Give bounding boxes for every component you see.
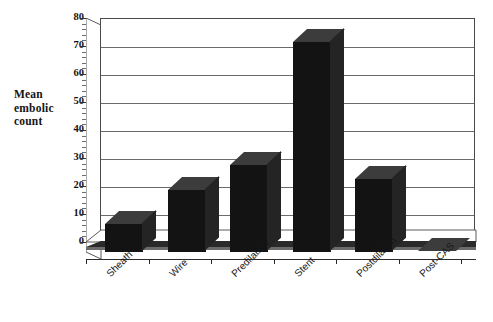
chart-figure: Mean embolic count 01020304050607080 She…	[0, 0, 493, 322]
x-axis-tick	[399, 259, 400, 264]
bar-top-face	[168, 177, 206, 190]
bar-top-face	[293, 29, 331, 42]
x-axis-tick	[86, 259, 87, 264]
bar-front-face	[168, 190, 206, 252]
x-axis-tick	[461, 259, 462, 264]
x-axis-line	[86, 259, 476, 260]
x-axis-tick	[274, 259, 275, 264]
bar	[293, 42, 331, 252]
bar-side-face	[205, 176, 220, 252]
figure-caption	[30, 312, 470, 321]
bar-side-face	[330, 28, 345, 252]
bar-top-face	[355, 166, 393, 179]
bar-front-face	[293, 42, 331, 252]
bar-front-face	[105, 224, 143, 252]
bar	[168, 190, 206, 252]
bar-side-face	[142, 210, 157, 252]
bar-side-face	[267, 151, 282, 252]
x-axis-tick	[149, 259, 150, 264]
x-axis-tick	[336, 259, 337, 264]
bar-top-face	[230, 152, 268, 165]
bar-series	[0, 0, 493, 262]
x-axis-tick	[211, 259, 212, 264]
bar-top-face	[105, 211, 143, 224]
bar	[105, 224, 143, 252]
